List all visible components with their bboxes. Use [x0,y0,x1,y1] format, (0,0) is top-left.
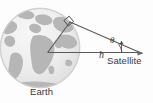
segment-tangent-to-satellite [70,22,141,53]
earth-label: Earth [30,87,53,97]
satellite-geometry-figure: Satellite Earth h θ [0,0,153,103]
diagram-canvas [0,0,153,103]
satellite-label: Satellite [107,56,142,66]
height-label: h [99,50,104,60]
theta-angle-label: θ [110,36,114,45]
theta-arrow-head-icon [119,41,123,44]
